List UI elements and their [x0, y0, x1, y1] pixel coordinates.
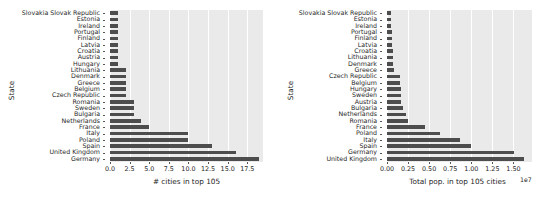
- y-tick-mark: [103, 108, 105, 109]
- y-tick-mark: [380, 39, 382, 40]
- y-tick-mark: [103, 115, 105, 116]
- y-tick-mark: [380, 77, 382, 78]
- y-tick-mark: [380, 108, 382, 109]
- y-tick-mark: [103, 153, 105, 154]
- bar-row: [387, 49, 532, 53]
- bar: [110, 144, 212, 148]
- x-tick-mark: [471, 162, 472, 164]
- x-tick-mark: [247, 162, 248, 164]
- y-tick-mark: [103, 77, 105, 78]
- bar: [387, 18, 391, 22]
- bar: [110, 113, 134, 117]
- x-tick-mark: [149, 162, 150, 164]
- bar: [110, 132, 188, 136]
- y-tick-mark: [103, 83, 105, 84]
- y-tick-mark: [103, 96, 105, 97]
- bar: [110, 62, 118, 66]
- bar: [110, 119, 141, 123]
- bar-row: [387, 125, 532, 129]
- y-tick-mark: [103, 127, 105, 128]
- bar-row: [110, 68, 263, 72]
- bar-row: [387, 11, 532, 15]
- x-tick-mark: [208, 162, 209, 164]
- x-tick-mark: [387, 162, 388, 164]
- y-tick-mark: [380, 134, 382, 135]
- bar: [387, 68, 394, 72]
- bar-row: [387, 56, 532, 60]
- bar-row: [110, 94, 263, 98]
- bar-row: [110, 87, 263, 91]
- y-tick-mark: [380, 127, 382, 128]
- bars-right: [387, 10, 532, 162]
- bar: [387, 125, 425, 129]
- bar-row: [387, 138, 532, 142]
- bar: [110, 37, 118, 41]
- bar-row: [387, 81, 532, 85]
- bar-row: [110, 75, 263, 79]
- y-tick-mark: [380, 146, 382, 147]
- bar: [387, 138, 460, 142]
- bar-row: [110, 43, 263, 47]
- y-tick-mark: [103, 39, 105, 40]
- bar-row: [110, 151, 263, 155]
- bar: [387, 24, 391, 28]
- bar-row: [110, 56, 263, 60]
- y-tick-mark: [380, 13, 382, 14]
- y-tick-mark: [103, 32, 105, 33]
- bar-row: [110, 138, 263, 142]
- bar-row: [387, 132, 532, 136]
- x-tick-mark: [513, 162, 514, 164]
- x-tick-mark: [408, 162, 409, 164]
- bar-row: [110, 113, 263, 117]
- bar: [110, 43, 118, 47]
- x-tick-mark: [429, 162, 430, 164]
- y-tick-mark: [380, 58, 382, 59]
- bar-row: [387, 62, 532, 66]
- bar-row: [387, 37, 532, 41]
- y-tick-mark: [380, 20, 382, 21]
- plot-area-left: [110, 10, 263, 162]
- bar: [387, 94, 401, 98]
- bar: [387, 81, 400, 85]
- bar: [387, 157, 524, 161]
- bar: [387, 87, 401, 91]
- y-tick-mark: [380, 96, 382, 97]
- bar: [387, 62, 393, 66]
- x-tick-mark: [169, 162, 170, 164]
- bar: [387, 106, 403, 110]
- y-tick-mark: [380, 121, 382, 122]
- bar-row: [110, 100, 263, 104]
- bar: [387, 119, 408, 123]
- bar: [387, 75, 400, 79]
- bar: [387, 49, 393, 53]
- bar-row: [387, 119, 532, 123]
- bar-row: [387, 113, 532, 117]
- y-tick-mark: [380, 115, 382, 116]
- y-tick-mark: [103, 13, 105, 14]
- bar: [110, 100, 134, 104]
- y-tick-mark: [380, 51, 382, 52]
- bar-row: [110, 49, 263, 53]
- bar-row: [110, 11, 263, 15]
- bar: [110, 81, 126, 85]
- bar-row: [110, 18, 263, 22]
- bar-row: [387, 24, 532, 28]
- y-tick-mark: [103, 45, 105, 46]
- x-tick-mark: [110, 162, 111, 164]
- y-tick-mark: [103, 26, 105, 27]
- y-tick-mark: [380, 159, 382, 160]
- bar: [110, 87, 126, 91]
- chart-panel-population: State Slovakia Slovak RepublicEstoniaIre…: [273, 0, 546, 198]
- bar: [387, 144, 471, 148]
- y-tick-mark: [103, 146, 105, 147]
- bar-row: [387, 68, 532, 72]
- y-tick-mark: [380, 45, 382, 46]
- y-tick-mark: [380, 89, 382, 90]
- bar: [110, 106, 134, 110]
- y-tick-mark: [103, 121, 105, 122]
- bar: [387, 11, 391, 15]
- bar-row: [110, 119, 263, 123]
- figure-two-bar-charts: State Slovakia Slovak RepublicEstoniaIre…: [0, 0, 546, 198]
- bar-row: [110, 81, 263, 85]
- y-tick-mark: [103, 51, 105, 52]
